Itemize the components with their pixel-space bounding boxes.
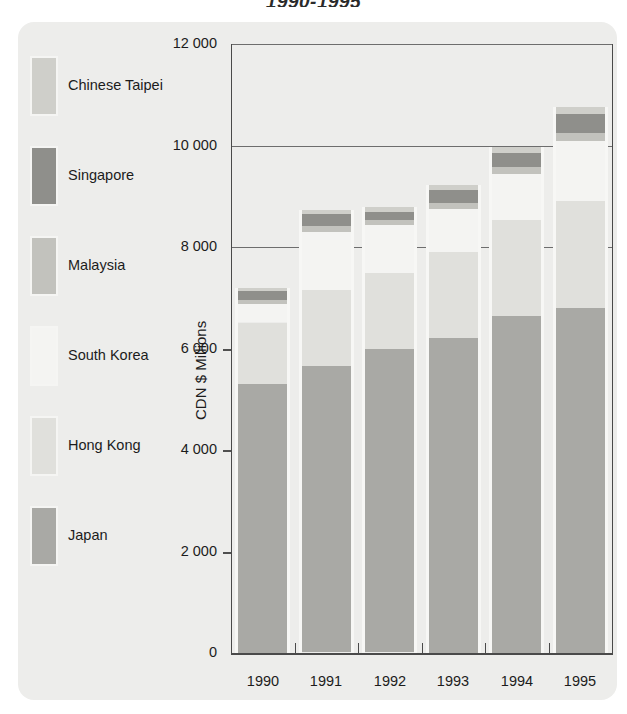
legend-item-chinese_taipei[interactable]: Chinese Taipei — [14, 56, 174, 116]
chart-title: 1990-1995 — [0, 0, 627, 7]
legend-label: Singapore — [68, 167, 134, 183]
legend-item-japan[interactable]: Japan — [14, 506, 174, 566]
legend-swatch-hong_kong — [30, 416, 58, 476]
legend-item-malaysia[interactable]: Malaysia — [14, 236, 174, 296]
legend-swatch-japan — [30, 506, 58, 566]
chart-figure: 1990-1995 Chinese TaipeiSingaporeMalaysi… — [0, 0, 627, 714]
legend-swatch-chinese_taipei — [30, 56, 58, 116]
legend-swatch-malaysia — [30, 236, 58, 296]
legend-label: Hong Kong — [68, 437, 141, 453]
legend-swatch-south_korea — [30, 326, 58, 386]
legend-item-hong_kong[interactable]: Hong Kong — [14, 416, 174, 476]
legend-label: Chinese Taipei — [68, 77, 163, 93]
legend-item-singapore[interactable]: Singapore — [14, 146, 174, 206]
legend-label: South Korea — [68, 347, 149, 363]
legend-swatch-singapore — [30, 146, 58, 206]
legend-label: Japan — [68, 527, 108, 543]
legend-label: Malaysia — [68, 257, 125, 273]
legend-item-south_korea[interactable]: South Korea — [14, 326, 174, 386]
